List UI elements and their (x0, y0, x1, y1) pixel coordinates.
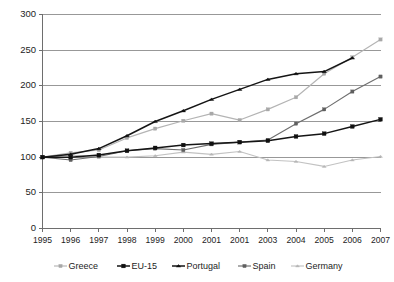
legend-item-greece[interactable]: Greece (54, 261, 98, 271)
data-point-marker (97, 153, 101, 157)
axis-lines (39, 15, 381, 232)
data-point-marker (182, 148, 185, 151)
x-tick-label: 2001 (230, 235, 249, 245)
data-point-marker (69, 155, 73, 159)
x-tick-label: 2003 (258, 235, 277, 245)
data-point-marker (210, 112, 213, 115)
x-tick-label: 1997 (89, 235, 108, 245)
data-point-marker (153, 146, 157, 150)
data-point-marker (210, 142, 214, 146)
legend-item-eu-15[interactable]: EU-15 (117, 261, 157, 271)
data-point-marker (379, 117, 383, 121)
x-tick-label: 1995 (33, 235, 52, 245)
series-germany (41, 150, 383, 167)
x-tick-label: 2006 (343, 235, 362, 245)
x-tick-label: 1998 (117, 235, 136, 245)
legend-label: Spain (253, 261, 276, 271)
data-point-marker (266, 139, 270, 143)
gridlines (43, 50, 381, 228)
chart-canvas: 050100150200250300 199519961997199819992… (0, 0, 394, 282)
legend-label: Greece (69, 261, 99, 271)
legend-item-germany[interactable]: Germany (291, 261, 343, 271)
y-tick-label: 0 (31, 222, 36, 233)
x-tick-label: 1996 (61, 235, 80, 245)
data-point-marker (154, 127, 157, 130)
line-chart: 050100150200250300 199519961997199819992… (0, 0, 394, 282)
data-point-marker (323, 108, 326, 111)
chart-legend: GreeceEU-15PortugalSpainGermany (54, 261, 343, 271)
legend-label: EU-15 (132, 261, 158, 271)
data-point-marker (59, 264, 62, 267)
y-tick-label: 100 (20, 151, 36, 162)
data-point-marker (181, 143, 185, 147)
legend-item-portugal[interactable]: Portugal (172, 261, 220, 271)
data-series (40, 38, 382, 168)
y-tick-label: 300 (20, 8, 36, 19)
x-tick-labels: 1995199619971998199920002001200120032004… (33, 235, 390, 245)
y-tick-label: 250 (20, 44, 36, 55)
series-line (43, 58, 353, 157)
data-point-marker (294, 135, 298, 139)
data-point-marker (379, 38, 382, 41)
legend-label: Portugal (187, 261, 221, 271)
data-point-marker (294, 96, 297, 99)
data-point-marker (266, 108, 269, 111)
data-point-marker (122, 264, 126, 268)
data-point-marker (125, 149, 129, 153)
x-tick-label: 2007 (371, 235, 390, 245)
legend-label: Germany (306, 261, 344, 271)
x-tick-label: 2005 (315, 235, 334, 245)
series-line (43, 119, 381, 157)
y-tick-label: 150 (20, 115, 36, 126)
legend-item-spain[interactable]: Spain (238, 261, 276, 271)
x-tick-label: 1999 (146, 235, 165, 245)
data-point-marker (294, 122, 297, 125)
data-point-marker (322, 132, 326, 136)
y-tick-labels: 050100150200250300 (20, 8, 36, 233)
data-point-marker (243, 264, 246, 267)
data-point-marker (238, 140, 242, 144)
series-spain (41, 75, 382, 162)
data-point-marker (350, 125, 354, 129)
data-point-marker (182, 119, 185, 122)
data-point-marker (379, 75, 382, 78)
series-portugal (40, 57, 354, 159)
x-tick-label: 2004 (286, 235, 305, 245)
data-point-marker (351, 90, 354, 93)
x-tick-label: 2001 (202, 235, 221, 245)
data-point-marker (238, 118, 241, 121)
x-tick-label: 2000 (174, 235, 193, 245)
y-tick-label: 50 (25, 186, 36, 197)
series-line (43, 77, 381, 160)
y-tick-label: 200 (20, 79, 36, 90)
